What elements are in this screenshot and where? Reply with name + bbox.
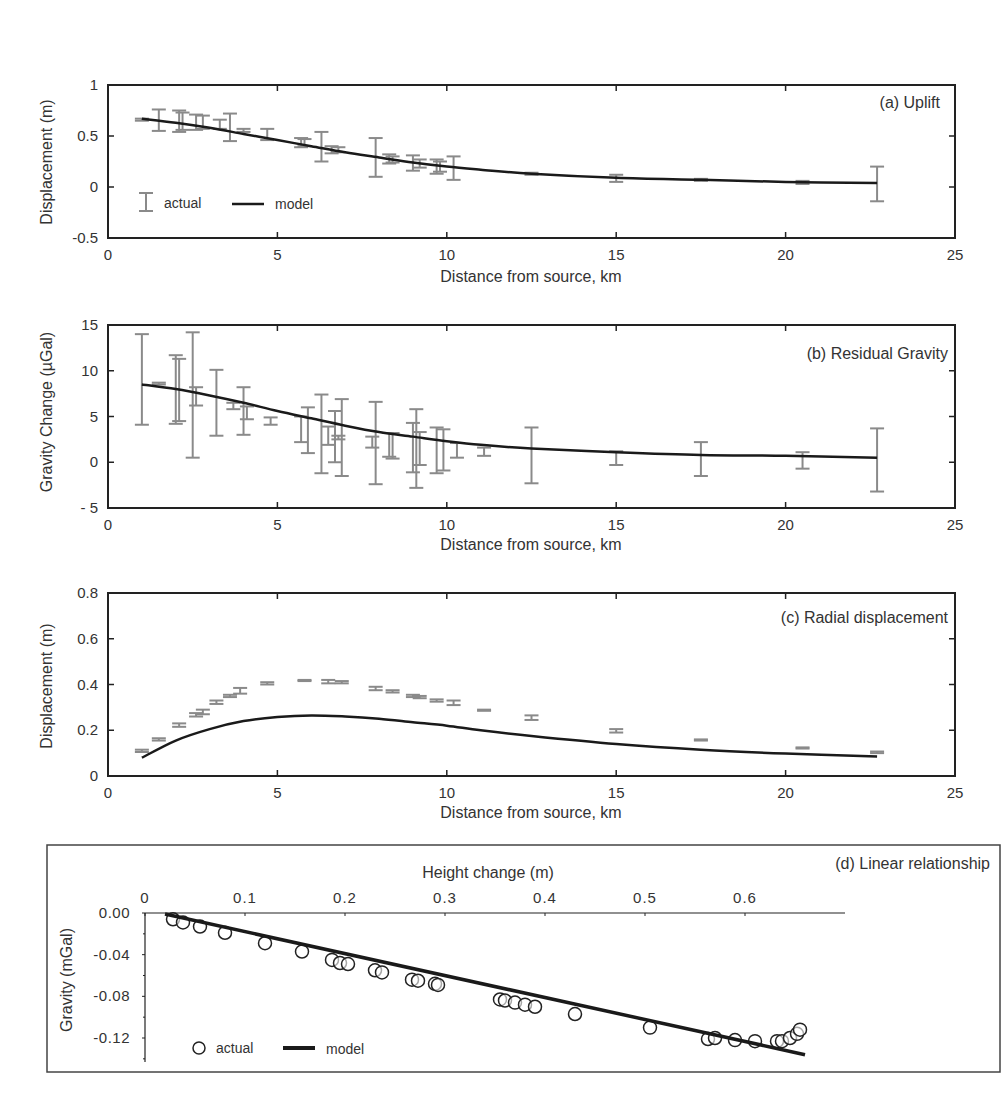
errorbar-point xyxy=(430,699,444,701)
errorbar-point xyxy=(294,417,308,443)
y-tick-label: 0.8 xyxy=(77,584,98,601)
errorbar-point xyxy=(223,695,237,697)
legend-actual-label: actual xyxy=(216,1040,253,1056)
errorbar-point xyxy=(186,332,200,457)
errorbar-point xyxy=(609,729,623,732)
errorbar-point xyxy=(223,114,237,142)
x-tick-label: 25 xyxy=(947,784,964,801)
x-tick-label: 5 xyxy=(273,784,281,801)
y-tick-label: 0 xyxy=(90,453,98,470)
y-tick-label: 0.00 xyxy=(99,904,130,921)
model-line xyxy=(142,384,877,457)
errorbar-point xyxy=(477,448,491,456)
errorbar-point xyxy=(152,383,166,385)
panel-a-ylabel: Displacement (m) xyxy=(38,99,55,224)
errorbar-point xyxy=(477,710,491,711)
errorbar-point xyxy=(135,334,149,425)
panel-a-ticks: 051015202510.50-0.5 xyxy=(72,76,963,263)
x-tick-label: 15 xyxy=(608,784,625,801)
x-tick-label: 25 xyxy=(947,516,964,533)
panel-b-residual-gravity: 0510152025151050- 5 (b) Residual Gravity… xyxy=(38,316,963,553)
panel-b-xlabel: Distance from source, km xyxy=(440,536,621,553)
x-tick-label: 0.2 xyxy=(333,889,357,906)
x-tick-label: 5 xyxy=(273,246,281,263)
errorbar-point xyxy=(447,701,461,706)
errorbar-point xyxy=(264,417,278,424)
errorbar-point xyxy=(386,690,400,692)
panel-a-legend: actual model xyxy=(139,193,313,212)
errorbar-point xyxy=(233,688,247,694)
errorbar-legend-icon xyxy=(139,193,153,211)
errorbar-point xyxy=(335,681,349,683)
scatter-point xyxy=(794,1023,807,1036)
errorbar-point xyxy=(796,452,810,468)
panel-b-data xyxy=(135,332,884,491)
errorbar-point xyxy=(694,442,708,476)
scatter-point xyxy=(376,966,389,979)
errorbar-point xyxy=(450,443,464,458)
errorbar-point xyxy=(694,739,708,740)
y-tick-label: 0.6 xyxy=(77,630,98,647)
panel-b-title: (b) Residual Gravity xyxy=(807,345,948,362)
errorbar-point xyxy=(409,409,423,488)
errorbar-point xyxy=(365,437,379,448)
scatter-point xyxy=(569,1008,582,1021)
errorbar-point xyxy=(386,433,400,459)
y-tick-label: 0.2 xyxy=(77,721,98,738)
x-tick-label: 15 xyxy=(608,516,625,533)
errorbar-point xyxy=(172,723,186,726)
model-line xyxy=(142,119,877,183)
x-tick-label: 0.4 xyxy=(533,889,557,906)
errorbar-point xyxy=(237,129,251,132)
x-tick-label: 0.1 xyxy=(233,889,257,906)
y-tick-label: 0.5 xyxy=(77,127,98,144)
x-tick-label: 0 xyxy=(140,889,149,906)
x-tick-label: 10 xyxy=(438,246,455,263)
errorbar-point xyxy=(369,402,383,484)
x-tick-label: 0 xyxy=(104,246,112,263)
scatter-point xyxy=(296,945,309,958)
x-tick-label: 0.6 xyxy=(733,889,757,906)
scatter-point xyxy=(342,958,355,971)
x-tick-label: 0 xyxy=(104,784,112,801)
panel-a-uplift: 051015202510.50-0.5 (a) Uplift Distance … xyxy=(38,76,963,285)
errorbar-point xyxy=(176,113,190,130)
x-tick-label: 5 xyxy=(273,516,281,533)
x-tick-label: 0.5 xyxy=(633,889,657,906)
errorbar-point xyxy=(135,750,149,752)
panel-b-ylabel: Gravity Change (µGal) xyxy=(38,332,55,492)
y-tick-label: - 5 xyxy=(80,499,98,516)
errorbar-point xyxy=(209,370,223,436)
y-tick-label: -0.12 xyxy=(93,1029,130,1046)
y-tick-label: 15 xyxy=(81,316,98,333)
y-tick-label: 0 xyxy=(90,178,98,195)
errorbar-point xyxy=(870,428,884,491)
panel-d-ylabel: Gravity (mGal) xyxy=(58,928,75,1032)
y-tick-label: -0.5 xyxy=(72,229,98,246)
errorbar-point xyxy=(331,436,345,440)
x-tick-label: 0.3 xyxy=(433,889,457,906)
errorbar-point xyxy=(209,701,223,704)
y-tick-label: 0.4 xyxy=(77,676,98,693)
panel-a-xlabel: Distance from source, km xyxy=(440,268,621,285)
y-tick-label: 10 xyxy=(81,362,98,379)
errorbar-point xyxy=(240,406,254,419)
errorbar-point xyxy=(321,680,335,683)
panel-d-xlabel: Height change (m) xyxy=(422,864,554,881)
x-tick-label: 20 xyxy=(777,784,794,801)
panel-a-title: (a) Uplift xyxy=(880,94,941,111)
y-tick-label: -0.08 xyxy=(93,987,130,1004)
errorbar-point xyxy=(301,407,315,453)
errorbar-point xyxy=(870,752,884,754)
errorbar-point xyxy=(226,403,240,409)
panel-c-xlabel: Distance from source, km xyxy=(440,804,621,821)
x-tick-label: 10 xyxy=(438,516,455,533)
errorbar-point xyxy=(260,682,274,684)
errorbar-point xyxy=(382,433,396,457)
y-tick-label: -0.04 xyxy=(93,946,130,963)
model-line xyxy=(165,914,805,1055)
panel-a-data xyxy=(135,109,884,201)
legend-model-label: model xyxy=(326,1041,364,1057)
errorbar-point xyxy=(525,715,539,720)
panel-d-data xyxy=(165,913,807,1055)
